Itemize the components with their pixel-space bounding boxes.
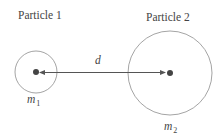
arrowhead-right-icon xyxy=(160,70,166,75)
particle-2-center-dot xyxy=(167,70,173,76)
mass-2-label: m2 xyxy=(164,120,177,132)
mass-1-symbol: m xyxy=(27,93,35,105)
mass-1-subscript: 1 xyxy=(36,99,40,108)
particle-1-title: Particle 1 xyxy=(18,9,62,21)
mass-1-label: m1 xyxy=(27,93,40,105)
particle-2-title: Particle 2 xyxy=(146,11,190,23)
mass-2-symbol: m xyxy=(164,120,172,132)
arrowhead-left-icon xyxy=(39,70,45,75)
mass-2-subscript: 2 xyxy=(173,126,177,135)
distance-label: d xyxy=(95,54,101,66)
particle-1-center-dot xyxy=(33,69,39,75)
